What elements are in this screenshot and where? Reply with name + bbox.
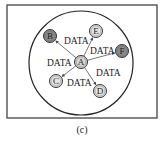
edge-label: DATA (67, 78, 92, 88)
node-f: F (116, 45, 129, 58)
edge-label: DATA (64, 36, 89, 46)
node-label: C (53, 76, 59, 86)
figure-caption: (c) (0, 124, 164, 135)
node-label: E (93, 26, 99, 36)
node-label: F (119, 46, 124, 56)
node-label: A (78, 57, 85, 67)
edge-label: DATA (47, 58, 72, 68)
node-a: A (75, 56, 88, 69)
node-label: B (47, 31, 53, 41)
node-d: D (94, 85, 107, 98)
edge-label: DATA (90, 46, 115, 56)
node-e: E (90, 25, 103, 38)
edge-label: DATA (96, 68, 121, 78)
node-label: D (97, 86, 104, 96)
node-b: B (44, 30, 57, 43)
node-c: C (50, 75, 63, 88)
network-diagram: DATADATADATADATADATA ABEFCD (0, 0, 164, 144)
